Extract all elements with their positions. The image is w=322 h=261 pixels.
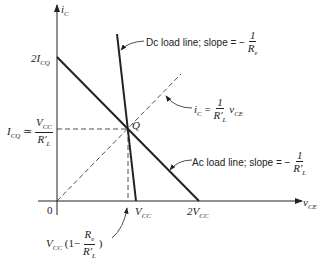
vcc-label: VCC [135, 206, 151, 220]
vq-leader [112, 208, 127, 238]
q-point-label: Q [132, 120, 140, 131]
y-axis-label: iC [61, 4, 69, 18]
two-vcc-label: 2VCC [187, 206, 209, 220]
two-icq-label: 2ICQ [31, 53, 50, 67]
vq-label: VCC (1− ReR′L ) [46, 228, 102, 261]
diag-leader [166, 96, 192, 108]
ac-load-line-label: Ac load line; slope = − 1R′L [192, 149, 306, 178]
ac-leader [170, 160, 192, 170]
icq-label: ICQ ≃ VCCR′L [7, 116, 53, 149]
ic-vce-label: iC = 1R′L vCE [194, 96, 243, 125]
x-axis-label: vCE [303, 197, 317, 211]
dc-load-line [117, 34, 136, 201]
origin-label: 0 [47, 205, 53, 216]
dc-leader [121, 41, 144, 50]
ic-vce-line [57, 74, 181, 201]
dc-load-line-label: Dc load line; slope = − 1Re [146, 29, 258, 58]
